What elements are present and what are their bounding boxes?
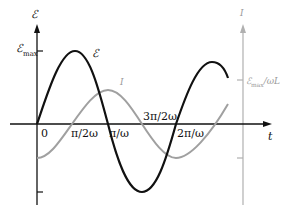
time-axis-arrow-icon — [263, 121, 272, 127]
emf-axis-label: ℰ — [31, 8, 39, 21]
current-curve-label: I — [119, 77, 124, 87]
tick-label-pi-2w: π/2ω — [71, 127, 98, 140]
tick-label-pi-w: π/ω — [109, 127, 129, 140]
emf-current-diagram: ℰ ℰ max ℰ I I ℰmax/ωL t 0 π/2ω π/ω 3π/2ω… — [0, 0, 286, 215]
emf-axis-arrow-icon — [34, 24, 40, 33]
current-axis-label: I — [239, 8, 244, 18]
time-axis-label: t — [268, 130, 273, 143]
emf-curve-label: ℰ — [92, 47, 100, 60]
current-axis-arrow-icon — [240, 24, 246, 33]
current-max-label: ℰmax/ωL — [246, 76, 280, 88]
emf-max-sub: max — [23, 50, 38, 58]
tick-label-0: 0 — [41, 127, 48, 140]
tick-label-2pi-w: 2π/ω — [177, 127, 204, 140]
tick-label-3pi-2w: 3π/2ω — [143, 110, 177, 123]
emf-curve — [37, 51, 228, 192]
